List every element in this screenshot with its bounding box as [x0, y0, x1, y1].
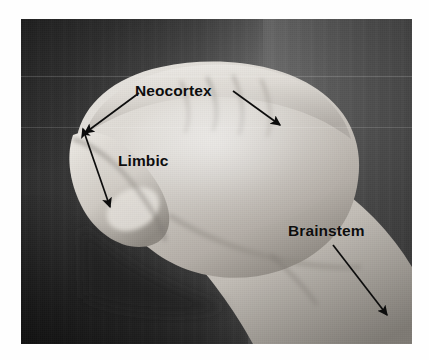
page-root: Neocortex Limbic Brainstem [0, 0, 429, 360]
photograph: Neocortex Limbic Brainstem [21, 19, 412, 344]
limbic-arrow [83, 129, 110, 207]
annotation-arrows [21, 19, 412, 344]
annotation-layer: Neocortex Limbic Brainstem [21, 19, 412, 344]
label-neocortex: Neocortex [135, 83, 212, 99]
neocortex-arrow-left [85, 93, 139, 133]
neocortex-arrow-right [233, 91, 280, 125]
label-brainstem: Brainstem [288, 223, 365, 239]
brainstem-arrow [333, 245, 387, 315]
label-limbic: Limbic [118, 153, 169, 169]
